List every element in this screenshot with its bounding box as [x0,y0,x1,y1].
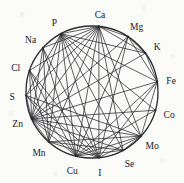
node-label-Zn: Zn [12,119,23,129]
node-Mg[interactable] [127,36,129,38]
node-label-Mg: Mg [130,22,143,32]
node-label-Co: Co [164,110,175,120]
node-label-I: I [98,168,101,178]
edge-Fe-Mo [141,82,157,136]
node-P[interactable] [60,33,62,35]
node-label-Mn: Mn [32,148,45,158]
node-label-K: K [154,42,161,52]
node-Se[interactable] [122,149,124,151]
node-label-Ca: Ca [95,10,106,20]
edge-Na-Mn [43,48,49,142]
figure-canvas: CaMgKFeCoMoSeICuMnZnSClNaP [0,0,184,183]
node-label-Se: Se [125,159,135,169]
edge-Zn-K [32,53,146,119]
node-label-Cu: Cu [67,166,78,176]
node-label-P: P [52,18,57,28]
node-Co[interactable] [154,109,156,111]
edge-layer [26,26,157,157]
node-Ca[interactable] [98,25,100,27]
node-Mo[interactable] [140,135,142,137]
node-K[interactable] [144,52,146,54]
node-I[interactable] [98,157,100,159]
edge-Zn-Mn [32,119,49,142]
node-label-Mo: Mo [145,141,158,151]
edge-K-Fe [145,53,157,81]
node-S[interactable] [25,94,27,96]
circular-network-diagram: CaMgKFeCoMoSeICuMnZnSClNaP [0,0,184,183]
node-label-Fe: Fe [166,76,176,86]
node-Zn[interactable] [31,118,33,120]
node-Cl[interactable] [28,69,30,71]
edge-P-Co [61,34,155,110]
node-label-Na: Na [25,35,37,45]
node-label-S: S [9,92,14,102]
node-Mn[interactable] [48,141,50,143]
edge-Zn-Co [32,110,156,119]
node-label-Cl: Cl [11,63,20,73]
node-Cu[interactable] [75,155,77,157]
node-Na[interactable] [42,47,44,49]
node-Fe[interactable] [156,81,158,83]
